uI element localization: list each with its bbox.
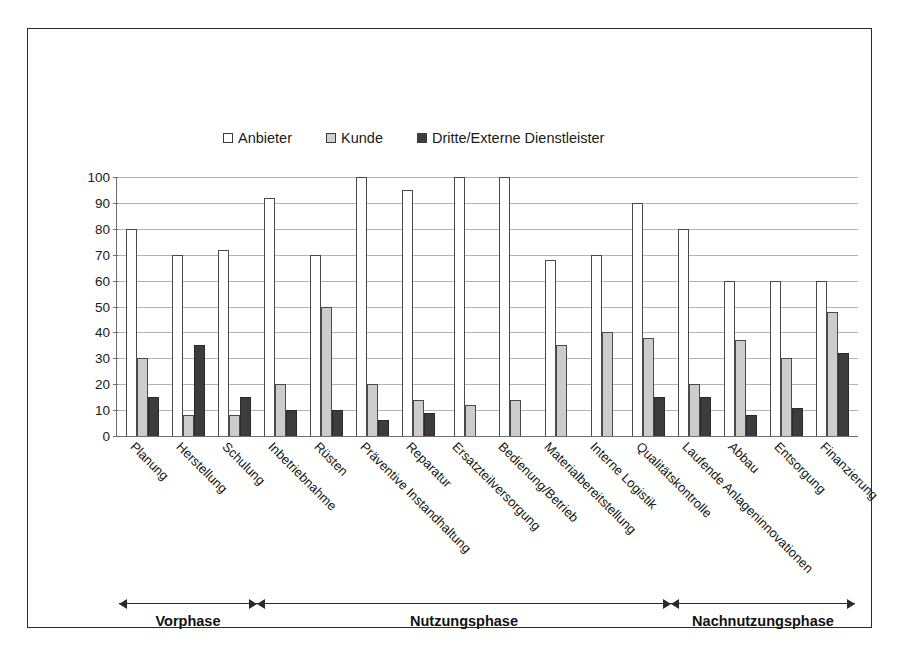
bar [321, 307, 332, 437]
bar-group [488, 177, 534, 436]
bar-group [166, 177, 212, 436]
y-tick-mark [113, 436, 118, 437]
bar [465, 405, 476, 436]
bar [240, 397, 251, 436]
x-axis-label: Rüsten [311, 439, 351, 479]
bar [183, 415, 194, 436]
bar [378, 420, 389, 436]
y-tick-label: 60 [95, 273, 110, 288]
arrow-left-icon [257, 599, 265, 609]
bar-group [442, 177, 488, 436]
phase-axis-line [257, 603, 671, 604]
bar [781, 358, 792, 436]
bar [286, 410, 297, 436]
phase-label: Nutzungsphase [257, 613, 671, 629]
legend-label: Kunde [341, 130, 383, 146]
bar-group [350, 177, 396, 436]
legend-label: Anbieter [238, 130, 292, 146]
bar [413, 400, 424, 436]
bar [356, 177, 367, 436]
bar-group [212, 177, 258, 436]
arrow-left-icon [671, 599, 679, 609]
bar [746, 415, 757, 436]
y-tick-label: 50 [95, 299, 110, 314]
bar [654, 397, 665, 436]
phase-bands: VorphaseNutzungsphaseNachnutzungsphase [88, 597, 888, 645]
y-tick-label: 100 [87, 170, 110, 185]
bar-group [671, 177, 717, 436]
bar [194, 345, 205, 436]
x-axis-labels: PlanungHerstellungSchulungInbetriebnahme… [116, 439, 858, 589]
legend-swatch-icon [326, 133, 336, 143]
x-axis-label: Ersatzteilversorgung [449, 439, 543, 533]
bar [678, 229, 689, 436]
bar [148, 397, 159, 436]
legend-item-0[interactable]: Anbieter [223, 130, 292, 146]
legend-swatch-icon [417, 133, 427, 143]
phase-band: Nutzungsphase [257, 597, 671, 643]
bar [591, 255, 602, 436]
y-tick-label: 10 [95, 403, 110, 418]
bar [499, 177, 510, 436]
chart-page: AnbieterKundeDritte/Externe Dienstleiste… [0, 0, 901, 658]
bar [632, 203, 643, 436]
bar [724, 281, 735, 436]
bar [367, 384, 378, 436]
chart-frame: AnbieterKundeDritte/Externe Dienstleiste… [27, 28, 872, 628]
legend-swatch-icon [223, 133, 233, 143]
x-axis-label: Bedienung/Betrieb [495, 439, 581, 525]
x-axis-label: Planung [127, 439, 171, 483]
bar [602, 332, 613, 436]
bar [556, 345, 567, 436]
y-tick-label: 80 [95, 221, 110, 236]
x-axis-label: Abbau [725, 439, 762, 476]
bar-group [809, 177, 855, 436]
bar-group [258, 177, 304, 436]
bar-group [763, 177, 809, 436]
arrow-right-icon [663, 599, 671, 609]
legend-item-1[interactable]: Kunde [326, 130, 383, 146]
legend-label: Dritte/Externe Dienstleister [432, 130, 604, 146]
y-tick-label: 30 [95, 351, 110, 366]
bar [510, 400, 521, 436]
bar [735, 340, 746, 436]
phase-band: Vorphase [119, 597, 257, 643]
bar [827, 312, 838, 436]
bar [454, 177, 465, 436]
arrow-right-icon [249, 599, 257, 609]
bar [643, 338, 654, 436]
arrow-right-icon [847, 599, 855, 609]
x-axis-label: Schulung [219, 439, 268, 488]
phase-axis-line [671, 603, 855, 604]
bar [218, 250, 229, 436]
legend-item-2[interactable]: Dritte/Externe Dienstleister [417, 130, 604, 146]
bar [332, 410, 343, 436]
bar [402, 190, 413, 436]
phase-band: Nachnutzungsphase [671, 597, 855, 643]
bar [770, 281, 781, 436]
y-tick-label: 0 [102, 429, 110, 444]
bar-group [120, 177, 166, 436]
bar [545, 260, 556, 436]
bar [689, 384, 700, 436]
bar [137, 358, 148, 436]
phase-label: Vorphase [119, 613, 257, 629]
y-tick-label: 20 [95, 377, 110, 392]
bar [816, 281, 827, 436]
bar [126, 229, 137, 436]
bar [310, 255, 321, 436]
y-tick-label: 70 [95, 247, 110, 262]
bar [172, 255, 183, 436]
bar-group [533, 177, 579, 436]
bar-group [625, 177, 671, 436]
y-tick-label: 40 [95, 325, 110, 340]
bar-group [396, 177, 442, 436]
bar-group [579, 177, 625, 436]
bar [424, 413, 435, 436]
y-tick-label: 90 [95, 195, 110, 210]
arrow-left-icon [119, 599, 127, 609]
phase-axis-line [119, 603, 257, 604]
x-axis-label: Finanzierung [817, 439, 881, 503]
plot-area: 0102030405060708090100 [116, 177, 858, 437]
bar [792, 408, 803, 436]
